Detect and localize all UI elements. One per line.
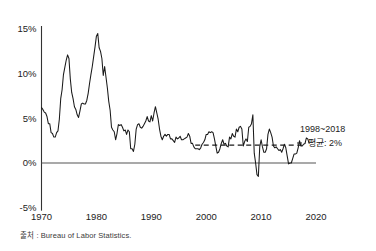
annotation-average-label: 평균: 2% <box>308 138 342 148</box>
x-axis-tick-label: 2020 <box>305 211 326 222</box>
y-axis-tick-label: 15% <box>17 23 37 34</box>
chart-page: 15%10%5%0%-5% 197019801990200020102020 1… <box>0 0 376 251</box>
y-axis-tick-label: 0% <box>23 157 37 168</box>
x-axis-tick-label: 1980 <box>86 211 107 222</box>
x-axis-tick-label: 1990 <box>141 211 162 222</box>
x-axis-tick-labels: 197019801990200020102020 <box>31 211 327 222</box>
source-note: 출처 : Bureau of Labor Statistics. <box>20 229 131 240</box>
y-axis-tick-labels: 15%10%5%0%-5% <box>17 23 37 213</box>
series-line-inflation <box>42 33 310 176</box>
y-axis-tick-label: 5% <box>23 113 37 124</box>
x-axis-tick-label: 2010 <box>251 211 272 222</box>
x-axis-tick-label: 2000 <box>196 211 217 222</box>
y-axis-tick-label: 10% <box>17 68 37 79</box>
annotation-period-label: 1998~2018 <box>300 124 345 134</box>
inflation-line-chart: 15%10%5%0%-5% 197019801990200020102020 1… <box>0 0 376 251</box>
axis-lines <box>42 26 317 211</box>
x-axis-tick-label: 1970 <box>31 211 52 222</box>
